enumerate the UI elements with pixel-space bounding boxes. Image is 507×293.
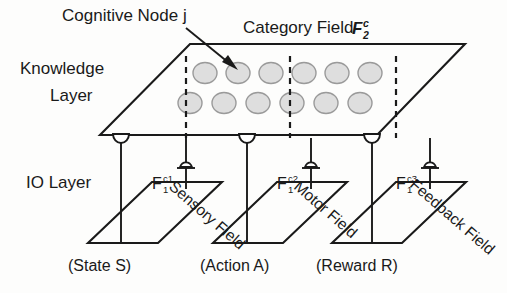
knowledge-layer-label-line1: Knowledge <box>20 59 104 78</box>
category-field-symbol-sub: 2 <box>362 29 369 41</box>
io-layer-label: IO Layer <box>26 173 92 192</box>
feedback-field-name: Feedback Field <box>407 175 498 257</box>
knowledge-node <box>314 93 338 114</box>
knowledge-node <box>325 63 349 84</box>
knowledge-node <box>348 93 372 114</box>
sensory-field-caption: (State S) <box>68 257 131 274</box>
knowledge-node <box>292 63 316 84</box>
motor-field-caption: (Action A) <box>200 257 269 274</box>
sensory-field-symbol-sup: c1 <box>163 173 173 184</box>
knowledge-node <box>193 63 217 84</box>
synapse-cone <box>180 162 192 167</box>
knowledge-node <box>212 93 236 114</box>
category-field-symbol-sup: c <box>363 17 369 29</box>
motor-field-symbol-base: F <box>277 175 287 192</box>
knowledge-node <box>280 93 304 114</box>
synapse-cup <box>364 134 380 143</box>
synapse-cone <box>424 162 436 167</box>
synapse-cup <box>239 134 255 143</box>
knowledge-layer-label-line2: Layer <box>50 86 93 105</box>
category-field-symbol-base: F <box>352 19 363 38</box>
knowledge-node <box>358 63 382 84</box>
knowledge-node <box>178 93 202 114</box>
feedback-field-symbol-base: F <box>396 175 406 192</box>
architecture-diagram: Cognitive Node j Category Field F c 2 Kn… <box>0 0 507 293</box>
feedback-field-caption: (Reward R) <box>316 257 398 274</box>
category-field-parallelogram <box>100 44 465 135</box>
category-field-label: Category Field <box>243 18 354 37</box>
arrow-shaft <box>186 28 229 63</box>
synapse-cone <box>305 162 317 167</box>
cognitive-node-label: Cognitive Node j <box>62 6 187 25</box>
sensory-field-name: Sensory Field <box>166 177 249 252</box>
knowledge-node <box>259 63 283 84</box>
motor-field-name: Motor Field <box>291 177 361 241</box>
sensory-field-symbol-base: F <box>152 175 162 192</box>
category-field-plane <box>100 44 465 135</box>
diagram-canvas: Cognitive Node j Category Field F c 2 Kn… <box>0 0 507 293</box>
synapse-cup <box>113 134 129 143</box>
motor-field-symbol-sup: c2 <box>288 173 298 184</box>
knowledge-node <box>246 93 270 114</box>
category-field-symbol: F c 2 <box>352 17 369 41</box>
knowledge-node-grid <box>178 63 382 114</box>
